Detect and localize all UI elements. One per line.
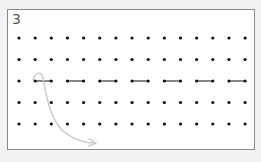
grid-dot[interactable] bbox=[130, 79, 133, 82]
grid-dot[interactable] bbox=[195, 58, 198, 61]
grid-dot[interactable] bbox=[82, 122, 85, 125]
grid-dot[interactable] bbox=[17, 122, 20, 125]
grid-dot[interactable] bbox=[50, 122, 53, 125]
grid-dot[interactable] bbox=[163, 36, 166, 39]
grid-dot[interactable] bbox=[179, 58, 182, 61]
grid-dot[interactable] bbox=[211, 36, 214, 39]
grid-dot[interactable] bbox=[244, 79, 247, 82]
grid-dot[interactable] bbox=[98, 36, 101, 39]
grid-dot[interactable] bbox=[50, 58, 53, 61]
grid-dot[interactable] bbox=[34, 79, 37, 82]
grid-dot[interactable] bbox=[114, 36, 117, 39]
grid-dot[interactable] bbox=[130, 101, 133, 104]
grid-dot[interactable] bbox=[227, 122, 230, 125]
grid-dot[interactable] bbox=[211, 58, 214, 61]
grid-dot[interactable] bbox=[66, 101, 69, 104]
grid-dot[interactable] bbox=[179, 122, 182, 125]
grid-dot[interactable] bbox=[147, 36, 150, 39]
grid-dot[interactable] bbox=[130, 122, 133, 125]
grid-dot[interactable] bbox=[17, 101, 20, 104]
grid-dot[interactable] bbox=[195, 122, 198, 125]
grid-dot[interactable] bbox=[244, 58, 247, 61]
grid-dot[interactable] bbox=[114, 58, 117, 61]
grid-dot[interactable] bbox=[66, 79, 69, 82]
grid-dot[interactable] bbox=[244, 101, 247, 104]
grid-dot[interactable] bbox=[66, 122, 69, 125]
grid-dot[interactable] bbox=[34, 36, 37, 39]
curved-arrow-icon bbox=[33, 73, 95, 143]
grid-dot[interactable] bbox=[98, 79, 101, 82]
grid-dot[interactable] bbox=[227, 58, 230, 61]
grid-dot[interactable] bbox=[130, 36, 133, 39]
grid-dot[interactable] bbox=[114, 79, 117, 82]
grid-dot[interactable] bbox=[163, 79, 166, 82]
grid-dot[interactable] bbox=[211, 122, 214, 125]
grid-dot[interactable] bbox=[50, 101, 53, 104]
grid-dot[interactable] bbox=[179, 79, 182, 82]
grid-dot[interactable] bbox=[147, 122, 150, 125]
grid-dot[interactable] bbox=[147, 101, 150, 104]
grid-dot[interactable] bbox=[163, 101, 166, 104]
grid-dot[interactable] bbox=[34, 101, 37, 104]
grid-dot[interactable] bbox=[82, 58, 85, 61]
grid-dot[interactable] bbox=[82, 79, 85, 82]
grid-dot[interactable] bbox=[163, 122, 166, 125]
grid-dot[interactable] bbox=[130, 58, 133, 61]
grid-dot[interactable] bbox=[244, 122, 247, 125]
grid-dot[interactable] bbox=[17, 36, 20, 39]
grid-dot[interactable] bbox=[195, 36, 198, 39]
grid-dot[interactable] bbox=[17, 58, 20, 61]
grid-dot[interactable] bbox=[211, 79, 214, 82]
grid-dot[interactable] bbox=[34, 58, 37, 61]
grid-dot[interactable] bbox=[227, 101, 230, 104]
grid-dot[interactable] bbox=[50, 36, 53, 39]
grid-dot[interactable] bbox=[227, 36, 230, 39]
grid-dot[interactable] bbox=[66, 58, 69, 61]
grid-dot[interactable] bbox=[179, 101, 182, 104]
grid-dot[interactable] bbox=[195, 101, 198, 104]
grid-dot[interactable] bbox=[82, 36, 85, 39]
grid-dot[interactable] bbox=[244, 36, 247, 39]
grid-dot[interactable] bbox=[195, 79, 198, 82]
grid-dot[interactable] bbox=[227, 79, 230, 82]
grid-dot[interactable] bbox=[147, 58, 150, 61]
grid-dot[interactable] bbox=[147, 79, 150, 82]
grid-dot[interactable] bbox=[17, 79, 20, 82]
grid-dot[interactable] bbox=[114, 122, 117, 125]
grid-dot[interactable] bbox=[211, 101, 214, 104]
grid-dot[interactable] bbox=[98, 101, 101, 104]
grid-dot[interactable] bbox=[50, 79, 53, 82]
grid-dot[interactable] bbox=[98, 122, 101, 125]
dot-grid-board bbox=[0, 0, 261, 162]
grid-dot[interactable] bbox=[82, 101, 85, 104]
grid-dot[interactable] bbox=[66, 36, 69, 39]
grid-dot[interactable] bbox=[114, 101, 117, 104]
grid-dot[interactable] bbox=[163, 58, 166, 61]
grid-dot[interactable] bbox=[98, 58, 101, 61]
grid-dot[interactable] bbox=[34, 122, 37, 125]
grid-dot[interactable] bbox=[179, 36, 182, 39]
